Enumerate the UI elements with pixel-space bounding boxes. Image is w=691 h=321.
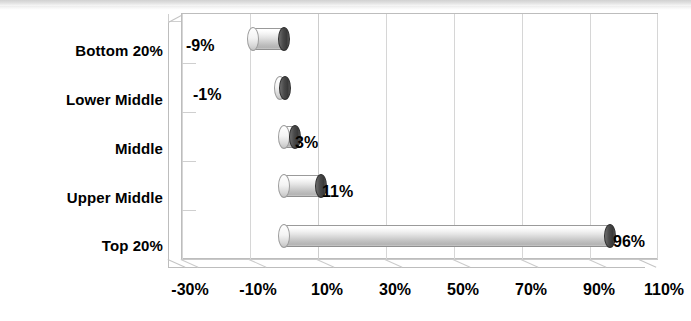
bar-near-cap-upper-middle: [278, 174, 290, 198]
category-label-top-20: Top 20%: [0, 237, 163, 254]
xtick-label-90: 90%: [583, 281, 615, 299]
category-label-lower-middle: Lower Middle: [0, 91, 163, 108]
category-label-upper-middle: Upper Middle: [0, 189, 163, 206]
xtick-label-10: 10%: [311, 281, 343, 299]
category-tick-1: [182, 63, 196, 64]
plot-area: [168, 13, 658, 267]
chart-canvas: Bottom 20% Lower Middle Middle Upper Mid…: [0, 0, 691, 321]
gridline-90: [590, 14, 591, 260]
value-axis-labels: -30% -10% 10% 30% 50% 70% 90% 110%: [0, 281, 691, 307]
gridline-30: [386, 14, 387, 260]
bar-top-20: [284, 225, 610, 247]
xtick-label-minus-10: -10%: [239, 281, 276, 299]
xtick-label-70: 70%: [515, 281, 547, 299]
bar-end-cap-lower-middle: [279, 76, 291, 100]
gridline-minus-10: [250, 14, 251, 260]
axis-top-edge: [168, 13, 182, 22]
axis-left-wall: [168, 21, 182, 267]
bar-near-cap-top-20: [278, 224, 290, 248]
bar-lower-middle: [280, 77, 285, 99]
bar-upper-middle: [284, 175, 321, 197]
bar-body-top-20: [284, 225, 610, 247]
data-label-top-20: 96%: [613, 233, 645, 251]
gridline-50: [454, 14, 455, 260]
gridline-minus-30: [182, 14, 183, 260]
category-tick-4: [182, 210, 196, 211]
gridline-110: [657, 14, 658, 260]
data-label-upper-middle: 11%: [322, 183, 353, 201]
xtick-label-30: 30%: [379, 281, 411, 299]
bar-near-cap-bottom-20: [247, 27, 259, 51]
plot-back-wall: [181, 13, 658, 259]
xtick-label-110: 110%: [644, 281, 684, 299]
scan-artifact-band-soft: [0, 6, 691, 10]
xtick-label-minus-30: -30%: [171, 281, 208, 299]
category-label-bottom-20: Bottom 20%: [0, 42, 163, 59]
category-axis-labels: Bottom 20% Lower Middle Middle Upper Mid…: [0, 13, 163, 267]
data-label-bottom-20: -9%: [186, 37, 214, 55]
gridline-70: [522, 14, 523, 260]
category-tick-2: [182, 112, 196, 113]
bar-end-cap-bottom-20: [278, 27, 290, 51]
gridline-zero-10: [318, 14, 319, 260]
xtick-label-50: 50%: [447, 281, 479, 299]
category-label-middle: Middle: [0, 140, 163, 157]
bar-bottom-20: [253, 28, 284, 50]
data-label-middle: 3%: [295, 134, 318, 152]
category-tick-3: [182, 161, 196, 162]
bar-middle: [284, 126, 295, 148]
plot-floor: [168, 259, 658, 268]
floor-front-edge: [168, 267, 645, 268]
data-label-lower-middle: -1%: [193, 86, 221, 104]
